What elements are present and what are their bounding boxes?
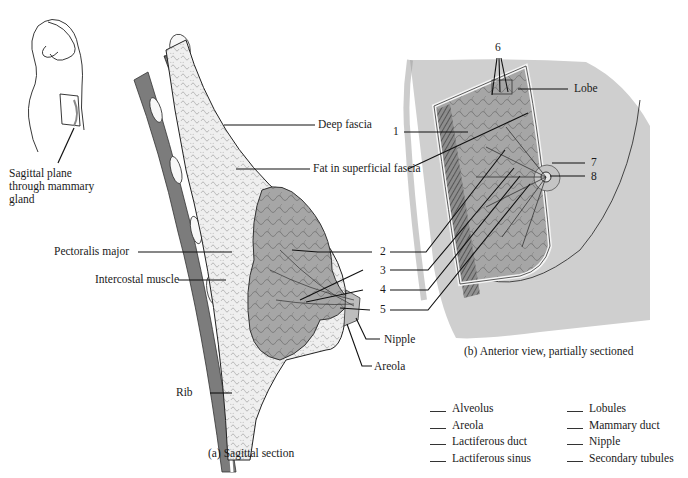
answer-key-left-column: Alveolus Areola Lactiferous duct Lactife… bbox=[430, 400, 531, 466]
answer-term: Lobules bbox=[589, 400, 626, 416]
answer-blank[interactable] bbox=[430, 453, 446, 462]
callout-7: 7 bbox=[591, 156, 597, 169]
answer-term: Alveolus bbox=[452, 400, 494, 416]
anterior-view bbox=[406, 59, 650, 338]
callout-4: 4 bbox=[380, 283, 386, 296]
answer-term: Mammary duct bbox=[589, 417, 660, 433]
answer-key-item: Lobules bbox=[567, 400, 674, 417]
answer-key-item: Secondary tubules bbox=[567, 450, 674, 467]
label-rib: Rib bbox=[176, 386, 193, 399]
inset-label-line: gland bbox=[9, 193, 94, 206]
inset-label: Sagittal plane through mammary gland bbox=[9, 167, 94, 206]
label-areola: Areola bbox=[374, 360, 405, 373]
answer-blank[interactable] bbox=[430, 436, 446, 445]
answer-term: Lactiferous duct bbox=[452, 433, 527, 449]
label-nipple: Nipple bbox=[384, 333, 415, 346]
answer-term: Nipple bbox=[589, 433, 620, 449]
callout-3: 3 bbox=[380, 264, 386, 277]
inset-label-line: Sagittal plane bbox=[9, 167, 94, 180]
label-lobe: Lobe bbox=[574, 82, 598, 95]
callout-2: 2 bbox=[380, 245, 386, 258]
inset-label-line: through mammary bbox=[9, 180, 94, 193]
inset-figure bbox=[28, 19, 84, 152]
answer-key-item: Mammary duct bbox=[567, 417, 674, 434]
answer-key-right-column: Lobules Mammary duct Nipple Secondary tu… bbox=[567, 400, 674, 466]
answer-key-item: Lactiferous duct bbox=[430, 433, 531, 450]
label-intercostal-muscle: Intercostal muscle bbox=[95, 273, 179, 286]
answer-key-item: Lactiferous sinus bbox=[430, 450, 531, 467]
callout-8: 8 bbox=[591, 170, 597, 183]
callout-6: 6 bbox=[495, 41, 501, 54]
answer-term: Lactiferous sinus bbox=[452, 450, 531, 466]
answer-blank[interactable] bbox=[430, 420, 446, 429]
caption-sagittal-section: (a) Sagittal section bbox=[208, 447, 294, 459]
answer-blank[interactable] bbox=[567, 403, 583, 412]
answer-blank[interactable] bbox=[430, 403, 446, 412]
answer-blank[interactable] bbox=[567, 453, 583, 462]
answer-key-item: Nipple bbox=[567, 433, 674, 450]
inset-pointer-line bbox=[58, 128, 74, 163]
answer-key-item: Alveolus bbox=[430, 400, 531, 417]
caption-anterior-view: (b) Anterior view, partially sectioned bbox=[464, 345, 633, 357]
label-pectoralis-major: Pectoralis major bbox=[54, 245, 129, 258]
label-fat-superficial-fascia: Fat in superficial fascia bbox=[313, 162, 421, 175]
answer-blank[interactable] bbox=[567, 420, 583, 429]
answer-blank[interactable] bbox=[567, 436, 583, 445]
answer-term: Areola bbox=[452, 417, 483, 433]
answer-term: Secondary tubules bbox=[589, 450, 674, 466]
label-deep-fascia: Deep fascia bbox=[318, 118, 372, 131]
answer-key-item: Areola bbox=[430, 417, 531, 434]
callout-5: 5 bbox=[380, 303, 386, 316]
answer-key: Alveolus Areola Lactiferous duct Lactife… bbox=[430, 400, 688, 470]
callout-1: 1 bbox=[393, 125, 399, 138]
